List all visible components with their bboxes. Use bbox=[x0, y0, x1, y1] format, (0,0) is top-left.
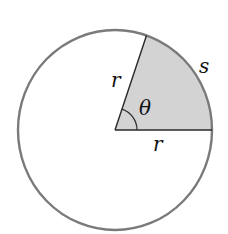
label-angle-theta: θ bbox=[139, 96, 151, 120]
shaded-sector bbox=[115, 36, 212, 131]
label-radius-lower: r bbox=[153, 132, 164, 156]
label-arc-s: s bbox=[199, 54, 209, 78]
sector-diagram: r θ r s bbox=[0, 0, 228, 234]
label-radius-upper: r bbox=[111, 68, 122, 92]
